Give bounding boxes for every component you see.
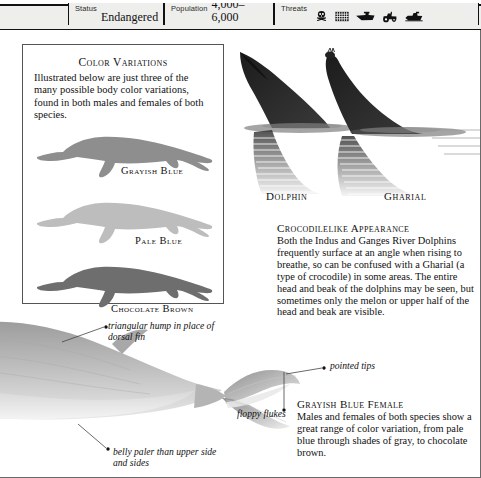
annotation-belly-paler: belly paler than upper side and sides	[113, 446, 233, 468]
status-fact: Status Endangered	[68, 3, 164, 25]
color-variations-panel: Color Variations Illustrated below are j…	[22, 44, 224, 304]
status-value: Endangered	[101, 11, 158, 24]
annotation-pointed-tips: pointed tips	[330, 360, 375, 371]
page-root: Status Endangered Population 4,000–6,000…	[0, 0, 481, 478]
motorboat-icon	[405, 11, 423, 22]
annotation-triangular-hump: triangular hump in place of dorsal fin	[108, 320, 228, 342]
population-label: Population	[171, 4, 207, 13]
color-variation-label: Grayish Blue	[121, 165, 183, 176]
color-variations-title: Color Variations	[23, 56, 223, 68]
fact-bar-cells: Status Endangered Population 4,000–6,000…	[0, 3, 481, 25]
threats-label: Threats	[281, 4, 307, 13]
population-fact: Population 4,000–6,000	[164, 3, 274, 25]
threat-icon-row	[315, 10, 423, 23]
color-variation-label: Pale Blue	[135, 235, 182, 246]
threats-fact: Threats	[274, 3, 479, 25]
color-variations-intro: Illustrated below are just three of the …	[34, 72, 212, 122]
grayish-blue-female-body: Males and females of both species show a…	[297, 411, 477, 459]
gharial-caption: Gharial	[384, 190, 426, 202]
dolphin-caption: Dolphin	[266, 190, 307, 202]
dolphin-silhouette-icon	[29, 193, 215, 251]
population-value: 4,000–6,000	[211, 3, 267, 24]
grayish-blue-female-heading: Grayish Blue Female	[297, 398, 477, 410]
status-label: Status	[75, 4, 97, 13]
dolphin-gharial-photo	[232, 42, 481, 210]
annotation-floppy-flukes: floppy flukes	[237, 408, 286, 419]
hunting-boat-icon	[356, 11, 375, 22]
crocodilelike-heading: Crocodilelike Appearance	[277, 222, 475, 234]
poison-skull-icon	[315, 10, 328, 23]
grayish-blue-female-block: Grayish Blue Female Males and females of…	[297, 398, 477, 459]
fishing-net-icon	[335, 11, 349, 22]
dolphin-silhouette-icon	[29, 127, 215, 185]
tractor-icon	[382, 11, 398, 23]
